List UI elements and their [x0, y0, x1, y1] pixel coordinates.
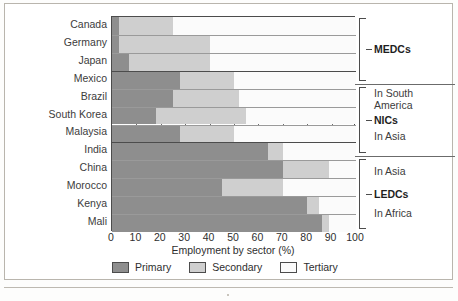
bar-segment-secondary[interactable]	[180, 125, 234, 143]
bar-row[interactable]	[112, 89, 354, 107]
legend-item-primary[interactable]: Primary	[112, 261, 171, 273]
legend: PrimarySecondaryTertiary	[112, 260, 356, 274]
bar-segment-tertiary[interactable]	[246, 107, 356, 125]
bar-segment-tertiary[interactable]	[283, 178, 356, 196]
group-separator	[112, 142, 356, 143]
bar-segment-secondary[interactable]	[119, 35, 209, 53]
footer-divider	[4, 287, 453, 288]
bracket-stub-medcs	[366, 49, 372, 50]
category-label-south-korea: South Korea	[3, 108, 107, 120]
bar-segment-tertiary[interactable]	[210, 35, 356, 53]
bracket-nics	[359, 87, 366, 153]
bar-row[interactable]	[112, 53, 354, 71]
bar-segment-primary[interactable]	[112, 160, 283, 178]
legend-swatch-primary	[112, 262, 129, 273]
bar-segment-tertiary[interactable]	[329, 214, 356, 232]
row-separator	[112, 53, 356, 54]
bar-segment-tertiary[interactable]	[234, 71, 356, 89]
bar-segment-secondary[interactable]	[173, 89, 239, 107]
bar-row[interactable]	[112, 142, 354, 160]
category-label-brazil: Brazil	[3, 90, 107, 102]
category-label-morocco: Morocco	[3, 179, 107, 191]
bar-row[interactable]	[112, 160, 354, 178]
group-note-ledcs-line2: In Africa	[374, 208, 412, 220]
row-separator	[112, 125, 356, 126]
bar-segment-secondary[interactable]	[283, 160, 329, 178]
group-note-nics-line1: In South	[374, 88, 413, 100]
category-label-japan: Japan	[3, 54, 107, 66]
bar-segment-secondary[interactable]	[322, 214, 329, 232]
bar-segment-secondary[interactable]	[180, 71, 234, 89]
bar-segment-secondary[interactable]	[222, 178, 283, 196]
group-separator	[112, 71, 356, 72]
category-label-mali: Mali	[3, 215, 107, 227]
category-label-mexico: Mexico	[3, 72, 107, 84]
bar-segment-secondary[interactable]	[268, 142, 283, 160]
bar-segment-tertiary[interactable]	[239, 89, 356, 107]
figure-container: CanadaGermanyJapanMexicoBrazilSouth Kore…	[0, 0, 458, 301]
bar-segment-tertiary[interactable]	[329, 160, 356, 178]
row-separator	[112, 89, 356, 90]
bar-segment-tertiary[interactable]	[283, 142, 356, 160]
bar-segment-primary[interactable]	[112, 17, 119, 35]
bracket-stub-ledcs	[366, 194, 372, 195]
bar-segment-secondary[interactable]	[307, 196, 319, 214]
group-note-nics-line3: In Asia	[374, 131, 406, 143]
bar-segment-tertiary[interactable]	[173, 17, 356, 35]
bar-row[interactable]	[112, 125, 354, 143]
group-divider-nics-ledcs	[355, 156, 455, 157]
bar-segment-primary[interactable]	[112, 107, 156, 125]
bar-segment-secondary[interactable]	[119, 17, 173, 35]
category-label-kenya: Kenya	[3, 197, 107, 209]
bar-row[interactable]	[112, 196, 354, 214]
row-separator	[112, 196, 356, 197]
group-title-ledcs: LEDCs	[374, 188, 408, 200]
bar-segment-secondary[interactable]	[156, 107, 246, 125]
bar-segment-secondary[interactable]	[129, 53, 210, 71]
bar-segment-primary[interactable]	[112, 125, 180, 143]
row-separator	[112, 160, 356, 161]
row-separator	[112, 214, 356, 215]
bar-row[interactable]	[112, 17, 354, 35]
category-axis-labels: CanadaGermanyJapanMexicoBrazilSouth Kore…	[0, 16, 107, 231]
category-label-india: India	[3, 143, 107, 155]
bar-segment-tertiary[interactable]	[319, 196, 356, 214]
category-label-germany: Germany	[3, 36, 107, 48]
x-tick-label: 60	[252, 231, 264, 243]
legend-label: Tertiary	[303, 261, 337, 273]
bar-segment-primary[interactable]	[112, 89, 173, 107]
x-tick-label: 50	[227, 231, 239, 243]
bracket-ledcs	[359, 159, 366, 229]
legend-item-secondary[interactable]: Secondary	[189, 261, 262, 273]
bar-segment-primary[interactable]	[112, 142, 268, 160]
bar-row[interactable]	[112, 178, 354, 196]
bar-segment-primary[interactable]	[112, 214, 322, 232]
bar-rows	[112, 17, 354, 230]
bar-row[interactable]	[112, 71, 354, 89]
bar-segment-tertiary[interactable]	[210, 53, 356, 71]
bracket-stub-nics	[366, 120, 372, 121]
bar-segment-primary[interactable]	[112, 196, 307, 214]
bar-row[interactable]	[112, 107, 354, 125]
group-annotations: MEDCs In South America NICs In Asia In A…	[355, 16, 455, 231]
group-note-ledcs-line1: In Asia	[374, 166, 406, 178]
bar-segment-tertiary[interactable]	[234, 125, 356, 143]
legend-item-tertiary[interactable]: Tertiary	[280, 261, 337, 273]
x-axis-title: Employment by sector (%)	[111, 244, 355, 256]
x-tick-label: 100	[346, 231, 364, 243]
category-label-china: China	[3, 161, 107, 173]
x-tick-label: 30	[178, 231, 190, 243]
legend-label: Primary	[135, 261, 171, 273]
group-title-nics: NICs	[374, 114, 398, 126]
group-note-nics-line2: America	[374, 100, 413, 112]
bar-segment-primary[interactable]	[112, 71, 180, 89]
legend-label: Secondary	[212, 261, 262, 273]
x-tick-label: 0	[108, 231, 114, 243]
legend-swatch-tertiary	[280, 262, 297, 273]
bar-segment-primary[interactable]	[112, 53, 129, 71]
bar-row[interactable]	[112, 35, 354, 53]
x-tick-label: 70	[276, 231, 288, 243]
bar-segment-primary[interactable]	[112, 35, 119, 53]
bar-row[interactable]	[112, 214, 354, 232]
bar-segment-primary[interactable]	[112, 178, 222, 196]
